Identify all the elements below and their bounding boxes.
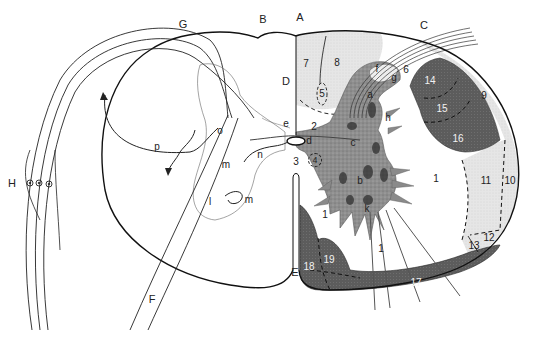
label-c: c bbox=[351, 138, 356, 148]
anterior-median-fissure bbox=[293, 174, 299, 271]
label-F: F bbox=[149, 294, 156, 305]
region-10: 10 bbox=[504, 176, 515, 186]
label-m-lower: m bbox=[245, 195, 253, 205]
region-17: 17 bbox=[410, 278, 421, 288]
fiber-m-loop bbox=[225, 192, 242, 204]
region-9: 9 bbox=[481, 91, 487, 101]
region-1-lateral: 1 bbox=[433, 174, 439, 184]
region-15: 15 bbox=[436, 104, 447, 114]
label-o: o bbox=[217, 126, 223, 136]
label-p: p bbox=[154, 142, 160, 152]
label-l: l bbox=[209, 197, 211, 207]
label-G: G bbox=[179, 19, 188, 30]
label-m-upper: m bbox=[222, 160, 230, 170]
region-5: 5 bbox=[319, 89, 325, 99]
central-canal bbox=[287, 137, 305, 145]
region-19: 19 bbox=[323, 255, 334, 265]
region-2: 2 bbox=[311, 122, 317, 132]
region-4: 4 bbox=[308, 153, 322, 167]
label-h: h bbox=[385, 113, 391, 123]
region-16: 16 bbox=[452, 134, 463, 144]
region-14: 14 bbox=[424, 76, 435, 86]
spinal-cord-diagram bbox=[0, 0, 534, 338]
tract-G-fibers bbox=[26, 28, 254, 330]
left-gray-outline bbox=[193, 64, 285, 220]
label-k: k bbox=[365, 204, 370, 214]
region-1-ventral: 1 bbox=[378, 244, 384, 254]
label-d: d bbox=[306, 136, 312, 146]
region-8: 8 bbox=[334, 58, 340, 68]
label-b: b bbox=[357, 176, 363, 186]
label-E: E bbox=[291, 267, 298, 278]
region-18: 18 bbox=[303, 262, 314, 272]
label-a: a bbox=[367, 90, 373, 100]
region-3: 3 bbox=[293, 157, 299, 167]
label-f: f bbox=[376, 64, 379, 74]
label-n: n bbox=[257, 150, 263, 160]
label-B: B bbox=[259, 14, 266, 25]
region-11: 11 bbox=[481, 176, 491, 186]
fiber-p bbox=[105, 95, 218, 153]
label-g: g bbox=[391, 73, 397, 83]
label-e: e bbox=[283, 119, 289, 129]
label-A: A bbox=[296, 12, 303, 23]
label-D: D bbox=[282, 76, 290, 87]
region-1-medial: 1 bbox=[322, 210, 328, 220]
region-6: 6 bbox=[403, 65, 409, 75]
label-C: C bbox=[420, 20, 428, 31]
region-12: 12 bbox=[483, 233, 494, 243]
region-13: 13 bbox=[468, 241, 479, 251]
label-H: H bbox=[8, 178, 16, 189]
fiber-n bbox=[244, 142, 288, 162]
region-7: 7 bbox=[303, 59, 309, 69]
